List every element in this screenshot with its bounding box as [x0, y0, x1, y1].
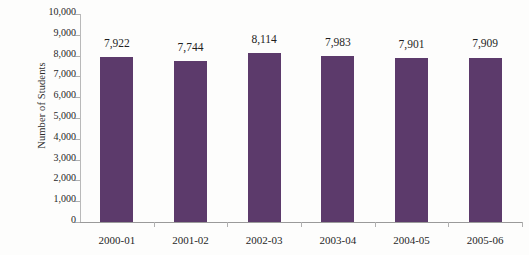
bar [248, 53, 281, 222]
x-tick-mark [154, 222, 155, 227]
bar-value-label: 7,922 [87, 37, 147, 49]
bar-chart: Number of Students 01,0002,0003,0004,000… [0, 0, 529, 255]
bar [395, 58, 428, 222]
x-tick-label: 2002-03 [229, 234, 299, 246]
x-tick-mark [227, 222, 228, 227]
bar [100, 57, 133, 222]
bar-value-label: 7,909 [455, 37, 515, 49]
y-tick-label: 5,000 [54, 110, 77, 121]
bar-value-label: 7,983 [308, 36, 368, 48]
bar-value-label: 7,901 [382, 38, 442, 50]
x-tick-label: 2003-04 [303, 234, 373, 246]
y-axis-title: Number of Students [30, 0, 52, 233]
x-tick-mark [301, 222, 302, 227]
y-tick-label: 1,000 [54, 193, 77, 204]
plot-area: 01,0002,0003,0004,0005,0006,0007,0008,00… [80, 14, 522, 222]
y-tick-label: 7,000 [54, 68, 77, 79]
y-tick-label: 0 [71, 214, 76, 225]
bar [174, 61, 207, 222]
y-tick-label: 10,000 [49, 6, 77, 17]
y-tick-label: 9,000 [54, 27, 77, 38]
bar-value-label: 7,744 [161, 41, 221, 53]
x-tick-label: 2001-02 [156, 234, 226, 246]
y-tick-label: 8,000 [54, 48, 77, 59]
y-tick-label: 3,000 [54, 152, 77, 163]
x-tick-mark [448, 222, 449, 227]
bar-value-label: 8,114 [234, 33, 294, 45]
x-tick-mark [522, 222, 523, 227]
x-tick-label: 2004-05 [377, 234, 447, 246]
x-tick-mark [375, 222, 376, 227]
x-tick-label: 2005-06 [450, 234, 520, 246]
bar [469, 58, 502, 223]
y-axis-line [80, 14, 81, 222]
y-tick-label: 4,000 [54, 131, 77, 142]
y-tick-label: 6,000 [54, 89, 77, 100]
x-tick-label: 2000-01 [82, 234, 152, 246]
y-tick-label: 2,000 [54, 172, 77, 183]
bar [321, 56, 354, 222]
